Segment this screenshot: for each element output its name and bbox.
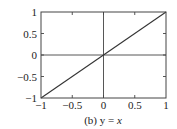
x-tick-label: 0.5 [128, 99, 142, 111]
x-tick-label: −0.5 [62, 99, 82, 111]
plot-svg: −1−0.500.51 −1−0.500.51 (b) y = x [0, 0, 177, 129]
x-axis-tick-labels: −1−0.500.51 [35, 99, 169, 111]
y-tick-label: −0.5 [17, 71, 37, 83]
y-tick-label: 0 [32, 49, 38, 61]
y-tick-label: −1 [25, 92, 37, 104]
chart: −1−0.500.51 −1−0.500.51 (b) y = x [0, 0, 177, 129]
y-tick-label: 1 [32, 6, 38, 18]
x-tick-label: 0 [101, 99, 107, 111]
x-tick-label: 1 [163, 99, 169, 111]
chart-caption: (b) y = x [84, 114, 122, 127]
y-tick-label: 0.5 [23, 28, 37, 40]
caption-prefix: (b) y = [84, 114, 117, 127]
y-axis-tick-labels: −1−0.500.51 [17, 6, 37, 104]
caption-italic-var: x [116, 114, 122, 126]
